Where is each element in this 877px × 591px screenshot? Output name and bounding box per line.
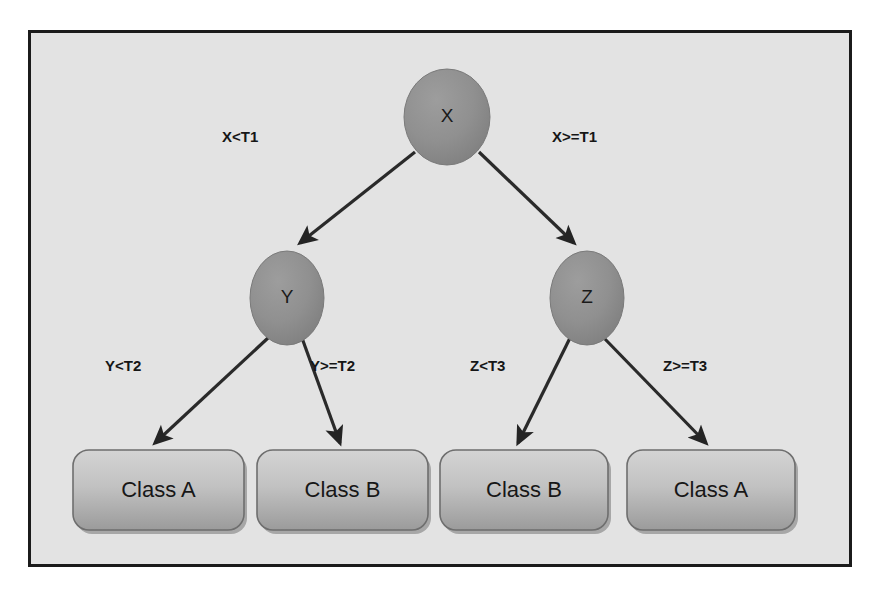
leaf-3: Class B [440, 450, 608, 530]
edge-label-root-right: X>=T1 [552, 128, 597, 145]
leaf-2-label: Class B [257, 477, 428, 503]
leaf-1-label: Class A [73, 477, 244, 503]
edge-label-z-left: Z<T3 [470, 357, 505, 374]
node-z-label: Z [572, 286, 602, 308]
node-root-label: X [432, 105, 462, 127]
decision-tree-figure: X Y Z Class A Class B Class B Class A X<… [0, 0, 877, 591]
leaf-1: Class A [73, 450, 244, 530]
leaf-2: Class B [257, 450, 428, 530]
node-y-label: Y [272, 286, 302, 308]
edge-label-y-right: Y>=T2 [310, 357, 355, 374]
leaf-4-label: Class A [627, 477, 795, 503]
edge-label-z-right: Z>=T3 [663, 357, 707, 374]
edge-label-root-left: X<T1 [222, 128, 258, 145]
leaf-4: Class A [627, 450, 795, 530]
edge-label-y-left: Y<T2 [105, 357, 141, 374]
leaf-3-label: Class B [440, 477, 608, 503]
